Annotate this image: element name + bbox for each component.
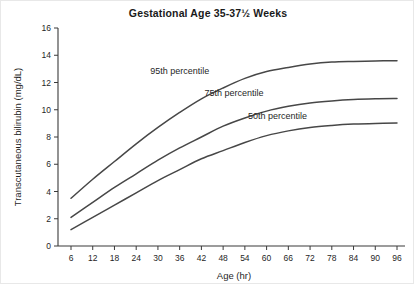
y-tick-label: 6	[46, 159, 51, 169]
tick-labels-group: 0246810121416612182430364248546066727884…	[42, 23, 402, 263]
x-tick-label: 90	[371, 253, 381, 263]
x-tick-label: 36	[175, 253, 185, 263]
x-tick-label: 18	[110, 253, 120, 263]
x-tick-label: 84	[349, 253, 359, 263]
x-tick-label: 96	[392, 253, 402, 263]
y-tick-label: 2	[46, 214, 51, 224]
y-tick-label: 12	[42, 78, 52, 88]
x-axis-title: Age (hr)	[217, 270, 251, 281]
x-tick-label: 12	[88, 253, 98, 263]
y-tick-label: 10	[42, 105, 52, 115]
x-tick-label: 6	[69, 253, 74, 263]
x-tick-label: 60	[262, 253, 272, 263]
series-labels-group: 95th percentile75th percentile50th perce…	[150, 66, 307, 121]
x-tick-label: 24	[131, 253, 141, 263]
series-label-3: 50th percentile	[248, 111, 307, 121]
chart-figure: Gestational Age 35-37½ Weeks 02468101214…	[0, 0, 414, 284]
series-label-1: 95th percentile	[150, 66, 209, 76]
x-tick-label: 42	[197, 253, 207, 263]
y-tick-label: 14	[42, 50, 52, 60]
y-tick-label: 0	[46, 241, 51, 251]
x-tick-label: 72	[305, 253, 315, 263]
x-tick-label: 48	[218, 253, 228, 263]
curve-3	[71, 123, 397, 230]
series-label-2: 75th percentile	[204, 88, 263, 98]
y-tick-label: 4	[46, 187, 51, 197]
x-tick-label: 66	[284, 253, 294, 263]
y-axis-title: Transcutaneous bilirubin (mg/dL)	[12, 68, 23, 207]
x-tick-label: 54	[240, 253, 250, 263]
y-tick-label: 16	[42, 23, 52, 33]
x-tick-label: 78	[327, 253, 337, 263]
x-tick-label: 30	[153, 253, 163, 263]
chart-plot-area: 0246810121416612182430364248546066727884…	[1, 1, 414, 284]
data-curves-group	[71, 61, 397, 230]
curve-1	[71, 61, 397, 199]
y-tick-label: 8	[46, 132, 51, 142]
